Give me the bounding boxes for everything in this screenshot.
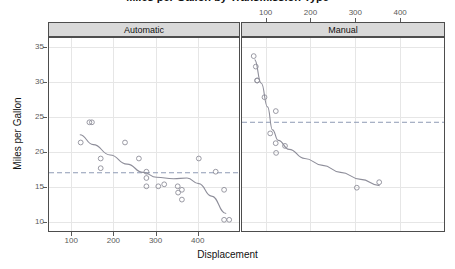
chart-root: Miles per Gallon by Transmission Type Mi… xyxy=(0,0,455,269)
data-point xyxy=(354,185,359,190)
data-point xyxy=(227,217,232,222)
data-point xyxy=(180,187,185,192)
loess-smoother-line xyxy=(80,135,226,214)
x-axis-tick-mark xyxy=(310,18,311,22)
x-axis-tick-mark xyxy=(400,18,401,22)
x-axis-top-tick-label: 200 xyxy=(290,8,330,17)
y-axis-tick-label: 20 xyxy=(22,147,44,156)
panel-strip-manual: Manual xyxy=(241,22,445,37)
data-point xyxy=(255,78,260,83)
data-point xyxy=(273,109,278,114)
data-point xyxy=(98,156,103,161)
data-point xyxy=(274,151,279,156)
x-axis-tick-mark xyxy=(113,232,114,236)
x-axis-tick-mark xyxy=(266,18,267,22)
data-point xyxy=(377,180,382,185)
data-point xyxy=(144,184,149,189)
chart-title: Miles per Gallon by Transmission Type xyxy=(0,0,455,3)
scatter-panel-automatic xyxy=(48,37,240,232)
panel-strip-automatic: Automatic xyxy=(48,22,240,37)
data-point xyxy=(144,176,149,181)
x-axis-tick-mark xyxy=(198,232,199,236)
y-axis-tick-label: 30 xyxy=(22,77,44,86)
x-axis-bottom-tick-label: 400 xyxy=(178,236,218,245)
x-axis-tick-mark xyxy=(355,18,356,22)
x-axis-top-tick-label: 400 xyxy=(380,8,420,17)
x-axis-top-tick-label: 100 xyxy=(246,8,286,17)
panel-plot-area xyxy=(49,38,240,232)
data-point xyxy=(156,184,161,189)
y-axis-tick-mark xyxy=(43,222,47,223)
data-point xyxy=(268,131,273,136)
y-axis-tick-label: 25 xyxy=(22,112,44,121)
y-axis-tick-mark xyxy=(43,152,47,153)
y-axis-tick-mark xyxy=(43,117,47,118)
data-point xyxy=(175,184,180,189)
data-point xyxy=(78,140,83,145)
data-point xyxy=(123,140,128,145)
data-point xyxy=(222,217,227,222)
data-point xyxy=(273,141,278,146)
data-point xyxy=(162,182,167,187)
data-point xyxy=(98,166,103,171)
x-axis-top-tick-label: 300 xyxy=(335,8,375,17)
y-axis-tick-label: 10 xyxy=(22,217,44,226)
y-axis-tick-mark xyxy=(43,82,47,83)
x-axis-tick-mark xyxy=(71,232,72,236)
data-point xyxy=(251,54,256,59)
x-axis-bottom-tick-label: 100 xyxy=(51,236,91,245)
y-axis-tick-label: 35 xyxy=(22,42,44,51)
y-axis-tick-mark xyxy=(43,187,47,188)
y-axis-tick-mark xyxy=(43,47,47,48)
data-point xyxy=(180,197,185,202)
panel-strip-label: Manual xyxy=(328,25,358,35)
y-axis-tick-label: 15 xyxy=(22,182,44,191)
x-axis-tick-mark xyxy=(156,232,157,236)
x-axis-title: Displacement xyxy=(0,249,455,260)
x-axis-bottom-tick-label: 200 xyxy=(93,236,133,245)
data-point xyxy=(213,169,218,174)
data-point xyxy=(137,156,142,161)
x-axis-bottom-tick-label: 300 xyxy=(136,236,176,245)
data-point xyxy=(196,156,201,161)
y-axis-title: Miles per Gallon xyxy=(12,79,23,189)
scatter-panel-manual xyxy=(241,37,445,232)
panel-plot-area xyxy=(242,38,445,232)
panel-strip-label: Automatic xyxy=(124,25,164,35)
data-point xyxy=(222,187,227,192)
